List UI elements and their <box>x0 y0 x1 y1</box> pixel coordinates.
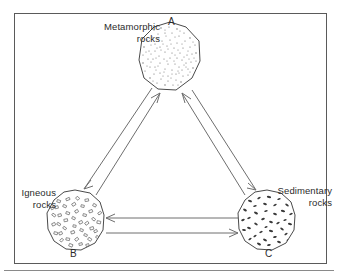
marker-b: B <box>70 248 77 259</box>
label-igneous-line2: rocks <box>8 199 56 211</box>
rock-cycle-figure: Metamorphic rocks Igneous rocks Sediment… <box>0 0 338 278</box>
arrow-a-to-b <box>84 88 152 189</box>
label-sedimentary-line2: rocks <box>252 197 332 209</box>
label-metamorphic: Metamorphic rocks <box>86 21 160 44</box>
arrow-c-to-b <box>106 214 238 222</box>
diagram-canvas <box>0 0 338 278</box>
label-metamorphic-line1: Metamorphic <box>86 21 160 33</box>
arrow-a-to-c <box>192 90 256 190</box>
marker-a: A <box>168 16 175 27</box>
arrow-c-to-a <box>182 93 245 195</box>
label-igneous-line1: Igneous <box>8 187 56 199</box>
label-igneous: Igneous rocks <box>8 187 56 210</box>
arrow-b-to-c <box>106 229 238 237</box>
marker-c: C <box>265 248 272 259</box>
label-sedimentary: Sedimentary rocks <box>252 185 332 208</box>
label-metamorphic-line2: rocks <box>86 33 160 45</box>
arrow-b-to-a <box>96 93 160 195</box>
label-sedimentary-line1: Sedimentary <box>252 185 332 197</box>
bottom-rule <box>4 270 334 271</box>
